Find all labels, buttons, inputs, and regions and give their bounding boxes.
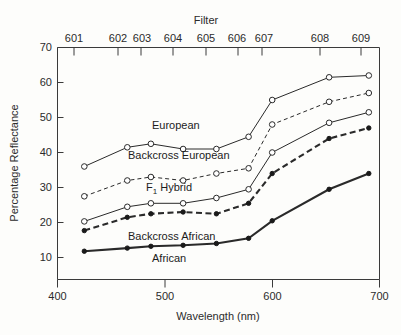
data-point <box>148 201 154 207</box>
x-axis-ticks <box>58 280 380 288</box>
data-point <box>327 136 331 140</box>
data-point <box>326 99 332 105</box>
y-tick-label: 40 <box>40 146 52 158</box>
data-point <box>214 171 220 177</box>
x-axis-tick-labels: 400 500 600 700 <box>48 290 388 302</box>
data-point <box>125 204 131 210</box>
filter-tick-label: 606 <box>228 32 246 44</box>
x-tick-label: 700 <box>370 290 388 302</box>
filter-tick-label: 605 <box>197 32 215 44</box>
x-tick-label: 500 <box>156 290 174 302</box>
data-point <box>82 164 88 170</box>
series-f1-hybrid <box>82 110 372 225</box>
y-tick-label: 50 <box>40 111 52 123</box>
data-point <box>148 141 154 147</box>
data-point <box>326 75 332 81</box>
data-point <box>180 201 186 207</box>
filter-tick-label: 602 <box>109 32 127 44</box>
data-point <box>246 201 250 205</box>
y-axis-title: Percentage Reflectance <box>8 104 20 221</box>
data-point <box>366 90 372 96</box>
data-point <box>270 219 274 223</box>
data-point <box>214 195 220 201</box>
chart-svg: 70 60 50 40 30 20 10 Percentage Reflecta… <box>0 0 401 335</box>
top-axis-title: Filter <box>194 14 219 26</box>
data-point <box>246 236 250 240</box>
data-point <box>246 134 252 140</box>
x-axis-title: Wavelength (nm) <box>176 310 259 322</box>
data-point <box>148 174 154 180</box>
filter-tick-label: 601 <box>65 32 83 44</box>
data-point <box>269 97 275 103</box>
y-tick-label: 70 <box>40 41 52 53</box>
filter-tick-label: 609 <box>352 32 370 44</box>
data-point <box>125 246 129 250</box>
y-axis-ticks <box>58 48 64 258</box>
data-point <box>149 244 153 248</box>
series-label-f1-hybrid: F1 Hybrid <box>146 181 192 196</box>
data-point <box>246 166 252 172</box>
series-label-european: European <box>152 119 200 131</box>
reflectance-chart: 70 60 50 40 30 20 10 Percentage Reflecta… <box>0 0 401 335</box>
data-point <box>326 120 332 126</box>
data-point <box>181 210 185 214</box>
y-axis-tick-labels: 70 60 50 40 30 20 10 <box>40 41 52 263</box>
data-point <box>82 194 88 200</box>
y-tick-label: 30 <box>40 181 52 193</box>
data-point <box>367 171 371 175</box>
series-layer <box>82 73 372 254</box>
x-tick-label: 400 <box>48 290 66 302</box>
y-tick-label: 10 <box>40 251 52 263</box>
data-point <box>149 212 153 216</box>
data-point <box>125 215 129 219</box>
f1-hybrid-tail: Hybrid <box>157 181 192 193</box>
data-point <box>269 122 275 128</box>
series-label-backcross-african: Backcross African <box>128 230 215 242</box>
data-point <box>269 150 275 156</box>
data-point <box>367 126 371 130</box>
filter-tick-label: 603 <box>133 32 151 44</box>
filter-tick-label: 607 <box>255 32 273 44</box>
data-point <box>181 243 185 247</box>
x-tick-label: 600 <box>263 290 281 302</box>
data-point <box>82 219 88 225</box>
data-point <box>270 171 274 175</box>
series-african <box>82 171 371 253</box>
filter-tick-label: 608 <box>311 32 329 44</box>
data-point <box>366 73 372 79</box>
data-point <box>82 249 86 253</box>
data-point <box>214 212 218 216</box>
series-line <box>84 174 369 252</box>
data-point <box>82 228 86 232</box>
top-axis-ticks <box>74 48 361 56</box>
top-axis-tick-labels: 601 602 603 604 605 606 607 608 609 <box>65 32 370 44</box>
y-tick-label: 60 <box>40 76 52 88</box>
data-point <box>246 187 252 193</box>
series-label-african: African <box>152 252 186 264</box>
data-point <box>366 110 372 116</box>
data-point <box>327 187 331 191</box>
data-point <box>125 178 131 184</box>
y-tick-label: 20 <box>40 216 52 228</box>
filter-tick-label: 604 <box>164 32 182 44</box>
series-label-backcross-european: Backcross European <box>128 149 230 161</box>
